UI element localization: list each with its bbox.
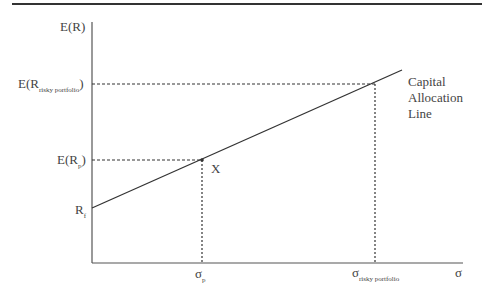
y-axis-label: E(R) [60,20,85,33]
cal-diagram [0,0,482,293]
capital-allocation-line [92,70,402,208]
y-tick-risky-sub: risky portfolio [39,86,79,94]
point-x-label: X [211,162,220,175]
sigma-p-sub: p [202,276,206,284]
cal-line2: Allocation [408,90,463,106]
y-tick-risky-return: E(Rrisky portfolio) [18,77,84,94]
x-tick-sigma-p: σp [195,267,206,284]
rf-sub: f [84,212,86,220]
point-x-marker [200,158,204,162]
y-tick-p-main: E(R [57,152,78,167]
cal-line3: Line [408,106,463,122]
cal-annotation: Capital Allocation Line [408,74,463,122]
rf-main: R [75,202,84,217]
sigma-p-main: σ [195,266,202,281]
cal-line1: Capital [408,74,463,90]
y-tick-risk-free: Rf [75,203,86,220]
x-tick-sigma-risky: σrisky portfolio [352,266,399,283]
y-tick-risky-close: ) [79,76,83,91]
y-tick-portfolio-return: E(Rp) [57,153,86,170]
y-tick-risky-main: E(R [18,76,39,91]
x-axis-label: σ [455,266,462,279]
y-tick-p-close: ) [81,152,85,167]
sigma-risky-sub: risky portfolio [359,275,399,283]
sigma-risky-main: σ [352,265,359,280]
